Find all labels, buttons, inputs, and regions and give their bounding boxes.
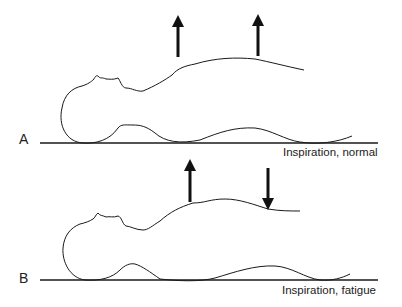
body-outline-b [63, 199, 350, 281]
panel-b [40, 165, 378, 281]
breathing-pattern-diagram: A Inspiration, normal B Inspiration, fat… [0, 0, 402, 307]
panel-b-letter: B [19, 270, 28, 286]
panel-a-letter: A [19, 131, 28, 147]
panel-a-caption: Inspiration, normal [283, 146, 378, 158]
panel-b-caption: Inspiration, fatigue [282, 284, 376, 296]
body-outline-a [61, 58, 352, 143]
panel-a [40, 20, 378, 143]
